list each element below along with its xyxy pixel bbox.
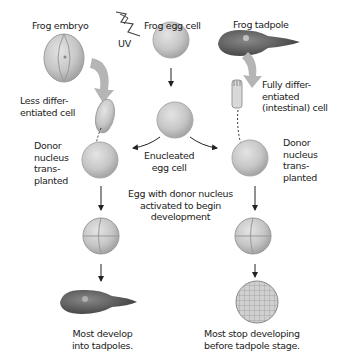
frog-embryo-label: Frog embryo [32, 20, 89, 32]
left-four-cell-embryo-icon [83, 218, 119, 254]
big-arrow-icon [90, 58, 114, 103]
right-four-cell-embryo-icon [235, 218, 271, 254]
frog-tadpole-label: Frog tadpole [233, 19, 289, 31]
left-recipient-egg-icon [82, 142, 118, 178]
big-arrow-icon [242, 52, 262, 88]
less-differentiated-cell-icon [93, 98, 118, 135]
uv-label: UV [118, 38, 131, 50]
left-outcome-label: Most develop into tadpoles. [72, 328, 133, 351]
left-donor-nucleus-label: Donor nucleus trans- planted [34, 140, 69, 186]
enucleated-egg-cell-label: Enucleated egg cell [144, 150, 194, 173]
uv-ray-icon [116, 12, 140, 36]
activation-label: Egg with donor nucleus activated to begi… [128, 188, 233, 223]
right-outcome-label: Most stop developing before tadpole stag… [204, 328, 300, 351]
right-donor-nucleus-label: Donor nucleus trans- planted [283, 137, 318, 183]
enucleated-egg-cell-icon [157, 102, 193, 138]
frog-tadpole-icon [218, 30, 300, 56]
frog-embryo-icon [44, 34, 84, 82]
fully-differentiated-cell-label: Fully differ- entiated (intestinal) cell [262, 79, 328, 114]
arrested-blastula-icon [236, 281, 278, 323]
less-differentiated-cell-label: Less differ- entiated cell [20, 95, 75, 118]
tadpole-outcome-icon [60, 290, 137, 314]
intestinal-cell-icon [232, 80, 242, 108]
frog-egg-cell-label: Frog egg cell [144, 20, 201, 32]
right-recipient-egg-icon [232, 140, 268, 176]
